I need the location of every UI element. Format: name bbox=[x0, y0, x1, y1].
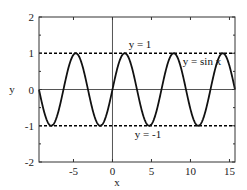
annotation-y-equals-sinx: y = sin x bbox=[183, 55, 222, 67]
annotation-y-equals-minus1: y = -1 bbox=[135, 128, 161, 140]
x-tick-label: -5 bbox=[69, 165, 79, 177]
annotation-y-equals-1: y = 1 bbox=[129, 38, 152, 50]
y-tick-label: 2 bbox=[29, 11, 35, 23]
x-axis-label: x bbox=[114, 176, 120, 188]
x-tick-label: 15 bbox=[224, 165, 236, 177]
y-tick-label: -2 bbox=[25, 156, 34, 168]
x-tick-label: 10 bbox=[185, 165, 197, 177]
y-tick-label: -1 bbox=[25, 120, 34, 132]
y-tick-label: 0 bbox=[29, 84, 35, 96]
chart: -5051015210-1-2 x y y = 1 y = sin x y = … bbox=[0, 0, 247, 190]
x-tick-label: 5 bbox=[149, 165, 155, 177]
y-tick-label: 1 bbox=[29, 47, 35, 59]
axis-ticks: -5051015210-1-2 bbox=[25, 11, 236, 177]
y-axis-label: y bbox=[9, 83, 15, 95]
